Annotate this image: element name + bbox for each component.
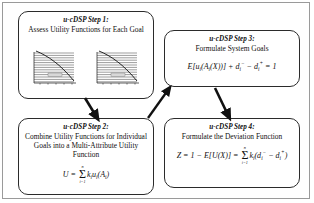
step2-equals: =: [71, 169, 76, 178]
step4-formula: Z = 1 − E[U(X)] = n Σ i=1 ki(di− − di+): [165, 146, 299, 166]
step1-title: u-cDSP Step 1:: [19, 16, 153, 25]
step3-plus: +: [228, 62, 233, 71]
utility-curve-right-chart: [91, 50, 143, 88]
chart-gridlines-left: [34, 53, 74, 82]
chart-axes-left: [34, 52, 76, 85]
step4-close: ): [285, 151, 288, 160]
step1-body: Assess Utility Functions for Each Goal: [19, 25, 153, 34]
step2-arg-close: ): [107, 169, 110, 178]
step4-d2-sub: i: [280, 156, 281, 162]
step4-sum-lower: i=1: [241, 161, 248, 166]
step3-a-open: (A: [201, 62, 209, 71]
step3-formula: E[ui(Ai(X))] + di− − di+ = 1: [165, 58, 299, 74]
step3-minus: −: [247, 62, 252, 71]
step3-d-minus-sup: −: [241, 60, 245, 66]
step4-z: Z: [177, 151, 181, 160]
step4-d1-sub: i: [261, 156, 262, 162]
step4-eu: E[U(X)]: [204, 151, 231, 160]
step2-body: Combine Utility Functions for Individual…: [19, 132, 153, 160]
step-box-step1: u-cDSP Step 1: Assess Utility Functions …: [18, 11, 154, 99]
step4-d1-sup: −: [263, 149, 267, 155]
step3-d-plus-sup: +: [259, 60, 263, 66]
flow-diagram-figure: u-cDSP Step 1: Assess Utility Functions …: [0, 0, 314, 203]
step-box-step2: u-cDSP Step 2: Combine Utility Functions…: [18, 118, 154, 195]
step2-arg-open: (A: [97, 169, 105, 178]
step4-body: Formulate the Deviation Function: [165, 132, 299, 141]
step4-mid: −: [268, 151, 273, 160]
chart-gridlines-right: [97, 53, 137, 82]
utility-curve-left-chart: [30, 50, 82, 88]
step2-lhs: U: [63, 169, 69, 178]
step4-eq1: = 1 −: [183, 151, 202, 160]
step3-title: u-cDSP Step 3:: [165, 35, 299, 44]
step2-title: u-cDSP Step 2:: [19, 123, 153, 132]
step4-eq2: =: [233, 151, 238, 160]
step2-summation: n Σ i=1: [79, 165, 86, 185]
step4-title: u-cDSP Step 4:: [165, 123, 299, 132]
step2-formula: U = n Σ i=1 kiui(Ai): [19, 165, 153, 185]
step-box-step3: u-cDSP Step 3: Formulate System Goals E[…: [164, 30, 300, 87]
chart-legend-left: [48, 73, 62, 76]
step1-charts-row: [25, 50, 147, 88]
step3-equals-one: = 1: [265, 62, 276, 71]
chart-axes-right: [97, 52, 139, 85]
step-box-step4: u-cDSP Step 4: Formulate the Deviation F…: [164, 118, 300, 188]
step3-d-minus-sub: i: [240, 66, 241, 72]
step3-e-open: E[u: [188, 62, 200, 71]
step3-d-plus-sub: i: [258, 66, 259, 72]
chart-legend-right: [111, 73, 125, 76]
step3-body: Formulate System Goals: [165, 44, 299, 53]
step2-sum-lower: i=1: [79, 180, 86, 185]
step3-x-part: (X))]: [210, 62, 226, 71]
step4-summation: n Σ i=1: [241, 146, 248, 166]
